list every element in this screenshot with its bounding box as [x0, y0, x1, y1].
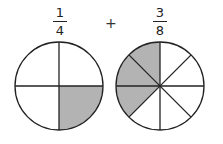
circle-eighths — [116, 42, 204, 130]
fraction-circles — [0, 0, 223, 144]
shaded-eighth-3 — [116, 86, 160, 117]
circle-quarters — [15, 42, 103, 130]
